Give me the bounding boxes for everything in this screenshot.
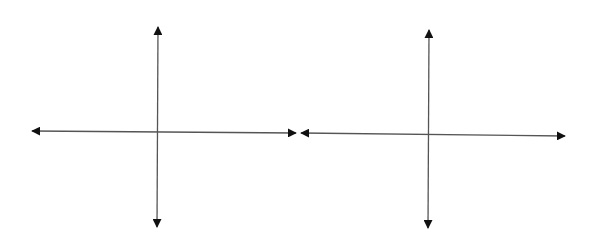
- right-coordinate-axes: [301, 30, 565, 228]
- vertical-axis-arrow: [428, 30, 429, 228]
- axes-diagram: [0, 0, 597, 247]
- horizontal-axis-arrow: [301, 133, 565, 136]
- left-coordinate-axes: [32, 27, 296, 227]
- vertical-axis-arrow: [157, 27, 158, 227]
- diagram-canvas: [0, 0, 597, 247]
- horizontal-axis-arrow: [32, 131, 296, 133]
